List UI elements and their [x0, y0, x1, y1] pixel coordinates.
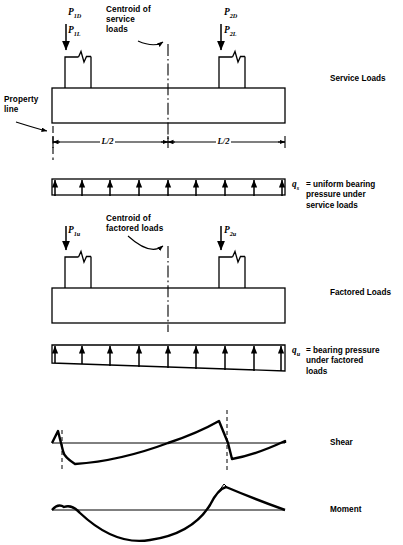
- label-factored-loads: Factored Loads: [330, 288, 391, 298]
- service-bearing-pressure-diagram: [52, 179, 285, 196]
- column-1-factored: [65, 252, 91, 289]
- label-p2d: P2D: [224, 7, 237, 19]
- service-loads-elevation: [16, 24, 285, 160]
- dimension-line-spans: [53, 136, 285, 148]
- trapezoid-pressure-arrows: [55, 346, 281, 371]
- label-p1d: P1D: [68, 7, 81, 19]
- label-moment: Moment: [330, 505, 361, 515]
- label-p1l: P1L: [68, 25, 81, 37]
- moment-diagram: [52, 484, 285, 541]
- factored-bearing-pressure-diagram: [52, 345, 285, 371]
- column-1-service: [65, 52, 91, 89]
- column-2-factored: [219, 252, 245, 289]
- label-service-loads: Service Loads: [330, 74, 386, 84]
- label-qs-symbol: qs: [292, 179, 299, 191]
- label-qu-text: = bearing pressure under factored loads: [306, 346, 380, 377]
- label-qu-symbol: qu: [292, 345, 300, 357]
- factored-loads-elevation: [52, 226, 285, 332]
- label-p1u: P1u: [68, 225, 80, 237]
- uniform-pressure-arrows: [55, 180, 282, 196]
- shear-diagram: [52, 410, 285, 470]
- label-shear: Shear: [330, 438, 353, 448]
- label-right-span: L/2: [216, 136, 231, 146]
- label-centroid-service: Centroid of service loads: [106, 5, 151, 35]
- column-2-service: [219, 52, 245, 89]
- label-p2u: P2u: [224, 225, 236, 237]
- label-qs-text: = uniform bearing pressure under service…: [306, 180, 375, 211]
- property-line-leader: [16, 122, 47, 131]
- label-centroid-factored: Centroid of factored loads: [106, 214, 163, 234]
- centroid-leader-service: [138, 41, 163, 45]
- label-property-line: Property line: [4, 95, 38, 115]
- moment-curve: [52, 487, 285, 541]
- combined-footing-figure: P1D P1L P2D P2L Centroid of service load…: [0, 0, 403, 545]
- label-left-span: L/2: [100, 136, 115, 146]
- centroid-leader-factored: [128, 236, 163, 249]
- label-p2l: P2L: [224, 25, 237, 37]
